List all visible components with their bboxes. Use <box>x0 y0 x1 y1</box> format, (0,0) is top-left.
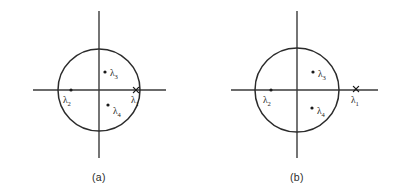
lambda-2-dot-marker <box>269 88 272 91</box>
lambda-3-label: λ3 <box>318 69 327 81</box>
eigenvalue-lambda-4: λ4 <box>106 103 121 117</box>
eigenvalue-figure: λ1λ2λ3λ4(a)λ1λ2λ3λ4(b) <box>0 0 397 196</box>
panel-a: λ1λ2λ3λ4(a) <box>33 11 166 183</box>
lambda-1-label: λ1 <box>131 95 139 107</box>
lambda-2-label: λ2 <box>63 95 71 107</box>
lambda-2-label: λ2 <box>263 95 271 107</box>
figure-canvas: λ1λ2λ3λ4(a)λ1λ2λ3λ4(b) <box>0 0 397 196</box>
lambda-3-label: λ3 <box>110 68 119 80</box>
lambda-4-label: λ4 <box>317 106 326 118</box>
lambda-2-dot-marker <box>69 88 72 91</box>
lambda-3-dot-marker <box>311 70 314 73</box>
panel-caption-a: (a) <box>92 171 106 183</box>
eigenvalue-lambda-4: λ4 <box>310 106 325 118</box>
lambda-4-dot-marker <box>106 103 109 106</box>
lambda-4-label: λ4 <box>113 106 122 118</box>
eigenvalue-lambda-3: λ3 <box>311 69 326 81</box>
lambda-1-label: λ1 <box>351 95 359 107</box>
lambda-4-dot-marker <box>310 106 313 109</box>
panel-caption-b: (b) <box>290 171 304 183</box>
eigenvalue-lambda-2: λ2 <box>263 88 273 106</box>
lambda-3-dot-marker <box>103 70 106 73</box>
panel-b: λ1λ2λ3λ4(b) <box>231 11 378 183</box>
eigenvalue-lambda-3: λ3 <box>103 68 118 80</box>
eigenvalue-lambda-2: λ2 <box>63 88 73 106</box>
